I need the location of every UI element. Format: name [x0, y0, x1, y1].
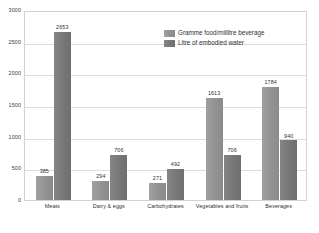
y-tick-label: 3000: [9, 8, 21, 13]
y-tick-label: 2000: [9, 72, 21, 77]
bar: [262, 87, 279, 200]
y-tick-label: 1500: [9, 103, 21, 108]
x-tick-label: Meats: [24, 203, 81, 210]
legend-item-1: Litre of embodied water: [164, 39, 264, 47]
plot-area: 385265329470627149216137061784940 Gramme…: [24, 11, 307, 201]
y-axis: 050010001500200025003000: [0, 0, 21, 233]
y-tick-label: 500: [12, 167, 21, 172]
legend-swatch-icon-1: [164, 40, 175, 47]
bar-chart: 050010001500200025003000 385265329470627…: [0, 0, 319, 233]
legend-item-0: Gramme food/millitre beverage: [164, 29, 264, 37]
y-tick-label: 2500: [9, 40, 21, 45]
legend-label-0: Gramme food/millitre beverage: [178, 30, 264, 36]
x-axis: MeatsDairy & eggsCarbohydratesVegetables…: [24, 203, 307, 227]
x-tick-label: Beverages: [250, 203, 307, 210]
legend: Gramme food/millitre beverage Litre of e…: [164, 29, 264, 47]
bar-value-label: 1784: [256, 80, 285, 85]
bar-value-label: 940: [274, 134, 303, 139]
x-tick-label: Dairy & eggs: [81, 203, 138, 210]
x-tick-label: Carbohydrates: [137, 203, 194, 210]
y-tick-label: 0: [18, 198, 21, 203]
y-tick-label: 1000: [9, 135, 21, 140]
bar: [280, 140, 297, 200]
legend-label-1: Litre of embodied water: [178, 40, 244, 46]
x-tick-label: Vegetables and fruits: [194, 203, 251, 210]
legend-swatch-icon-0: [164, 30, 175, 37]
